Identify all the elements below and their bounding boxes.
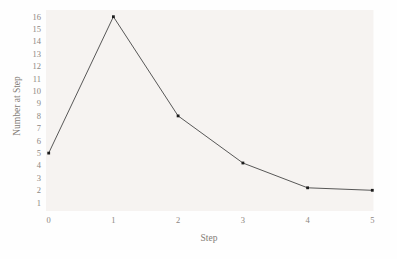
- y-tick-label: 6: [37, 136, 41, 146]
- data-point-marker: [371, 189, 374, 192]
- x-tick-label: 5: [370, 215, 374, 225]
- x-axis-title: Step: [201, 233, 218, 243]
- y-axis-title: Number at Step: [12, 76, 22, 136]
- chart-canvas: 12345678910111213141516 012345 Step Numb…: [0, 0, 397, 259]
- plot-area: [46, 10, 374, 211]
- x-tick-label: 3: [241, 215, 245, 225]
- y-tick-label: 2: [37, 185, 41, 195]
- data-point-marker: [47, 152, 50, 155]
- x-tick-label: 1: [111, 215, 115, 225]
- y-tick-label: 10: [33, 86, 42, 96]
- y-tick-label: 15: [33, 24, 42, 34]
- y-tick-label: 13: [33, 49, 42, 59]
- y-tick-label: 16: [33, 12, 42, 22]
- y-tick-label: 8: [37, 111, 41, 121]
- y-axis-tick-labels: 12345678910111213141516: [33, 12, 42, 208]
- data-point-marker: [177, 115, 180, 118]
- y-tick-label: 14: [33, 36, 42, 46]
- y-tick-label: 5: [37, 148, 41, 158]
- data-point-marker: [242, 162, 245, 165]
- y-tick-label: 1: [37, 198, 41, 208]
- y-tick-label: 11: [33, 74, 41, 84]
- x-tick-label: 2: [176, 215, 180, 225]
- line-chart-figure: 12345678910111213141516 012345 Step Numb…: [0, 0, 397, 259]
- x-tick-label: 0: [47, 215, 51, 225]
- y-tick-label: 4: [37, 160, 42, 170]
- y-tick-label: 9: [37, 98, 41, 108]
- y-tick-label: 7: [37, 123, 41, 133]
- data-point-marker: [306, 186, 309, 189]
- y-tick-label: 3: [37, 173, 41, 183]
- x-axis-tick-labels: 012345: [47, 215, 375, 225]
- data-point-marker: [112, 15, 115, 18]
- y-tick-label: 12: [33, 61, 42, 71]
- x-tick-label: 4: [305, 215, 310, 225]
